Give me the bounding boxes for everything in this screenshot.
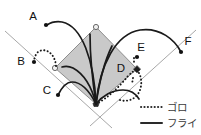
point-marker-E <box>135 55 139 59</box>
trajectory-to-B <box>34 50 56 66</box>
second-base-marker <box>93 24 98 29</box>
point-marker-A <box>44 23 48 27</box>
point-label-F: F <box>184 35 191 47</box>
point-label-A: A <box>29 10 37 22</box>
point-marker-C <box>56 93 60 97</box>
legend: ゴロ フライ <box>141 101 197 129</box>
field-diagram-svg: A B C D E F ゴロ フライ <box>0 0 201 135</box>
point-label-B: B <box>17 55 25 67</box>
point-label-D: D <box>117 62 125 74</box>
point-label-E: E <box>137 41 145 53</box>
legend-label-fly-ball: フライ <box>167 117 197 129</box>
point-marker-F <box>179 50 183 54</box>
baseball-trajectory-diagram: A B C D E F ゴロ フライ <box>0 0 201 135</box>
point-label-C: C <box>43 84 51 96</box>
point-marker-B <box>32 60 36 64</box>
legend-label-ground-ball: ゴロ <box>167 101 187 113</box>
